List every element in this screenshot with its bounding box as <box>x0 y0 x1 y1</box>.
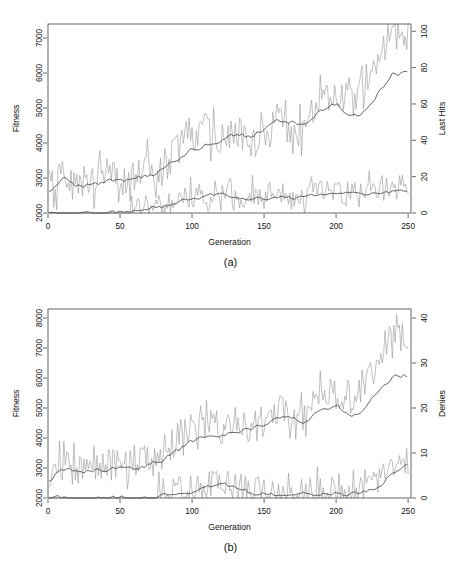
series-line-4 <box>49 190 406 213</box>
series-line-3 <box>49 449 408 498</box>
y-right-tick-label: 20 <box>420 403 429 413</box>
panel-b: 0501001502002502000300040005000600070008… <box>0 285 461 571</box>
y-left-tick-label: 5000 <box>35 398 44 417</box>
y-axis-title-left: Fitness <box>11 390 21 418</box>
y-left-tick-label: 6000 <box>35 63 44 82</box>
x-tick-label: 50 <box>115 507 125 516</box>
chart-b: 0501001502002502000300040005000600070008… <box>0 285 461 535</box>
chart-a: 0501001502002502000300040005000600070000… <box>0 0 461 250</box>
y-right-tick-label: 0 <box>420 210 429 215</box>
x-tick-label: 150 <box>257 507 271 516</box>
series-line-2 <box>49 375 406 481</box>
y-right-tick-label: 20 <box>420 172 429 182</box>
y-right-tick-label: 0 <box>420 495 429 500</box>
y-axis-title-right: Last Hits <box>437 102 447 135</box>
x-tick-label: 100 <box>185 222 199 231</box>
x-tick-label: 200 <box>329 507 343 516</box>
y-left-tick-label: 2000 <box>35 203 44 222</box>
y-right-tick-label: 100 <box>420 24 429 38</box>
x-tick-label: 0 <box>46 222 51 231</box>
x-tick-label: 150 <box>257 222 271 231</box>
y-left-tick-label: 3000 <box>35 458 44 477</box>
y-right-tick-label: 40 <box>420 313 429 323</box>
x-tick-label: 250 <box>401 222 415 231</box>
x-tick-label: 250 <box>401 507 415 516</box>
y-right-tick-label: 40 <box>420 135 429 145</box>
y-left-tick-label: 4000 <box>35 133 44 152</box>
caption-b: (b) <box>0 541 461 553</box>
panel-a: 0501001502002502000300040005000600070000… <box>0 0 461 285</box>
y-left-tick-label: 6000 <box>35 368 44 387</box>
plot-frame <box>48 309 411 498</box>
series-line-1 <box>49 315 408 489</box>
x-axis-title: Generation <box>208 522 251 532</box>
plot-frame <box>48 24 411 213</box>
y-right-tick-label: 80 <box>420 63 429 73</box>
y-left-tick-label: 2000 <box>35 488 44 507</box>
x-tick-label: 200 <box>329 222 343 231</box>
y-left-tick-label: 8000 <box>35 308 44 327</box>
y-left-tick-label: 7000 <box>35 28 44 47</box>
y-left-tick-label: 7000 <box>35 338 44 357</box>
y-axis-title-left: Fitness <box>11 105 21 133</box>
y-left-tick-label: 3000 <box>35 168 44 187</box>
y-right-tick-label: 30 <box>420 358 429 368</box>
y-right-tick-label: 10 <box>420 448 429 458</box>
y-right-tick-label: 60 <box>420 99 429 109</box>
x-tick-label: 0 <box>46 507 51 516</box>
y-left-tick-label: 5000 <box>35 98 44 117</box>
figure-container: 0501001502002502000300040005000600070000… <box>0 0 461 571</box>
x-axis-title: Generation <box>208 237 251 247</box>
y-left-tick-label: 4000 <box>35 428 44 447</box>
caption-a: (a) <box>0 256 461 268</box>
x-tick-label: 100 <box>185 507 199 516</box>
x-tick-label: 50 <box>115 222 125 231</box>
y-axis-title-right: Denies <box>437 390 447 417</box>
